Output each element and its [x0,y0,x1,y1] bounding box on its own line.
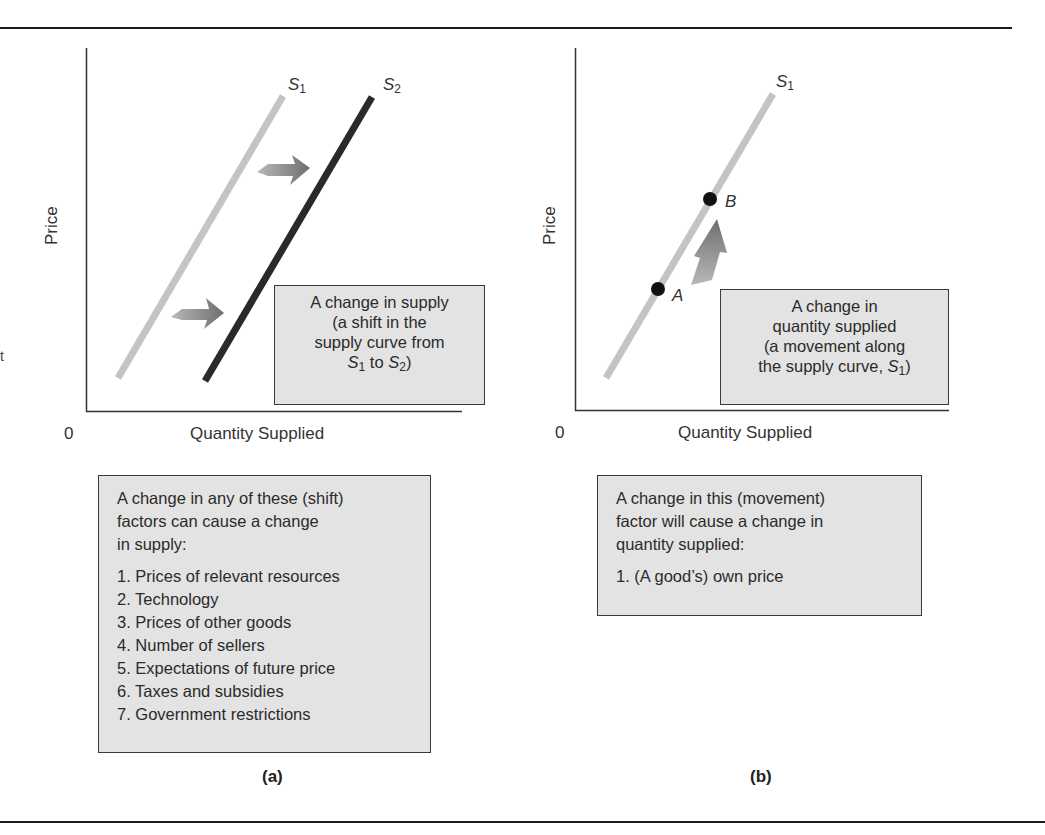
point-label-b: B [725,192,736,212]
panel-a-origin-label: 0 [64,424,73,444]
callout-line: supply curve from [275,332,484,352]
factors-intro: A change in any of these (shift) factors… [117,487,430,556]
factor-item: 2. Technology [117,588,430,611]
point-b-dot [703,192,717,206]
factor-item: 4. Number of sellers [117,634,430,657]
factor-item: 3. Prices of other goods [117,611,430,634]
panel-a-y-axis-label: Price [42,206,62,245]
callout-line: (a movement along [721,336,948,356]
point-a-dot [651,282,665,296]
panel-b-y-axis-label: Price [540,206,560,245]
panel-b-origin-label: 0 [555,423,564,443]
factor-item: 1. Prices of relevant resources [117,565,430,588]
callout-line: the supply curve, S1) [721,356,948,381]
panel-b-factors-box: A change in this (movement) factor will … [597,475,922,616]
factor-item: 6. Taxes and subsidies [117,680,430,703]
callout-line: (a shift in the [275,312,484,332]
panel-b-callout-box: A change in quantity supplied (a movemen… [720,289,949,405]
panel-a-factors-box: A change in any of these (shift) factors… [98,475,431,753]
callout-line: A change in [721,296,948,316]
curve-label-s1-b: S1 [776,72,794,93]
panel-a-callout-box: A change in supply (a shift in the suppl… [274,285,485,405]
panel-a-label: (a) [262,767,283,787]
panel-b-x-axis-label: Quantity Supplied [678,423,812,443]
panel-b-label: (b) [750,767,772,787]
supply-curve-s1-a [118,96,283,378]
callout-line: S1 to S2) [275,352,484,377]
curve-label-s2-a: S2 [383,75,401,96]
callout-line: quantity supplied [721,316,948,336]
factor-item: 7. Government restrictions [117,703,430,726]
panel-a-x-axis-label: Quantity Supplied [190,424,324,444]
point-label-a: A [672,286,683,306]
curve-label-s1-a: S1 [288,75,306,96]
shift-arrow-upper-icon [257,155,310,185]
callout-line: A change in supply [275,292,484,312]
shift-arrow-lower-icon [171,298,224,329]
factors-intro: A change in this (movement) factor will … [616,487,921,556]
factor-item: 1. (A good’s) own price [616,565,921,588]
factor-item: 5. Expectations of future price [117,657,430,680]
